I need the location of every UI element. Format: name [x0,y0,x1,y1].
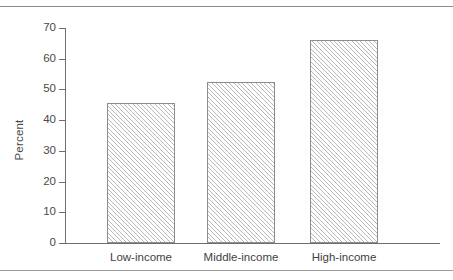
y-axis-title: Percent [13,119,25,160]
x-tick-label-middle-income: Middle-income [204,252,279,264]
x-tick-label-high-income: High-income [312,252,377,264]
y-tick-mark [59,243,65,244]
bar-middle-income[interactable] [207,82,275,243]
y-tick-mark [59,151,65,152]
x-tick-label-low-income: Low-income [110,252,172,264]
y-tick-mark [59,120,65,121]
y-tick-mark [59,212,65,213]
y-tick-label: 50 [43,84,56,96]
bottom-divider-rule [0,270,453,271]
y-tick-mark [59,182,65,183]
y-tick-label: 60 [43,53,56,65]
y-tick-label: 20 [43,176,56,188]
x-axis-line [65,243,440,244]
bar-low-income[interactable] [107,103,175,243]
y-tick-mark [59,59,65,60]
y-tick-label: 10 [43,207,56,219]
top-divider-rule [0,6,453,7]
y-tick-mark [59,28,65,29]
plot-area: 70 60 50 40 30 20 10 0 [65,28,440,243]
y-tick-mark [59,89,65,90]
y-tick-label: 40 [43,114,56,126]
bar-chart-figure: Percent 70 60 50 40 30 20 [0,0,453,280]
bar-high-income[interactable] [310,40,378,243]
y-axis-line [65,28,66,243]
y-tick-label: 30 [43,145,56,157]
y-tick-label: 0 [50,237,56,249]
y-tick-label: 70 [43,22,56,34]
